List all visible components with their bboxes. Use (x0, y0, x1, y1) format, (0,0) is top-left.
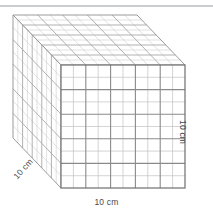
cube-illustration (0, 0, 213, 214)
cube-svg (0, 0, 213, 214)
cube-front-face (61, 65, 185, 188)
dimension-label-width: 10 cm (0, 198, 213, 207)
dimension-label-height: 10 cm (179, 120, 188, 144)
figure-canvas: 10 cm 10 cm 10 cm (0, 0, 213, 214)
